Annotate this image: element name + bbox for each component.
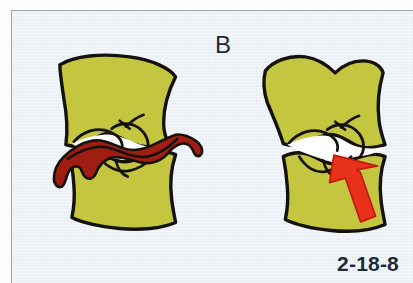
right-diagram [264,57,385,232]
left-diagram [54,55,202,229]
right-upper-vertebral-body [264,57,385,148]
left-upper-vertebral-body [60,55,176,147]
figure-root: B 2-18-8 [0,0,413,283]
panel-label: B [215,33,232,57]
medical-illustration [12,11,413,283]
illustration-plate: B 2-18-8 [11,10,413,283]
figure-number: 2-18-8 [337,253,399,274]
